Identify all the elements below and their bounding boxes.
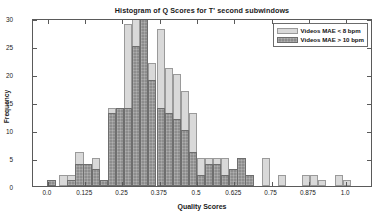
histogram-figure: Histogram of Q Scores for T' second subw… [0,0,387,224]
x-tick-mark [160,182,161,186]
x-tick-label: 0.0 [42,189,51,196]
histogram-bar [165,113,173,186]
histogram-bar [100,180,108,186]
x-tick-mark [122,182,123,186]
x-tick-mark [234,20,235,24]
x-tick-label: 1.0 [341,189,350,196]
y-tick-mark [367,48,371,49]
y-tick-mark [33,76,37,77]
histogram-bar [213,164,221,186]
x-tick-mark [272,182,273,186]
legend-swatch-icon-dark [277,37,298,43]
x-tick-mark [85,20,86,24]
histogram-bar [59,175,67,186]
legend-label-0: Videos MAE < 8 bpm [301,27,361,34]
histogram-bar [157,108,165,186]
histogram-bar [335,175,343,186]
plot-area: Videos MAE < 8 bpm Videos MAE > 10 bpm [32,19,372,187]
histogram-bar [262,158,270,186]
histogram-bar [221,175,229,186]
y-axis-title: Frequency [3,62,10,152]
x-tick-mark [85,182,86,186]
histogram-bar [318,180,326,186]
y-tick-mark [367,20,371,21]
x-tick-label: 0.5 [192,189,201,196]
x-axis-title: Quality Scores [32,203,372,210]
legend: Videos MAE < 8 bpm Videos MAE > 10 bpm [273,23,368,47]
x-tick-mark [197,182,198,186]
y-tick-mark [33,160,37,161]
legend-item-1[interactable]: Videos MAE > 10 bpm [277,35,364,44]
histogram-bar [140,19,148,186]
chart-title: Histogram of Q Scores for T' second subw… [32,6,372,15]
x-tick-mark [122,20,123,24]
x-tick-mark [160,20,161,24]
y-tick-mark [33,132,37,133]
x-tick-label: 0.875 [300,189,316,196]
x-tick-label: 0.625 [225,189,241,196]
y-tick-mark [33,20,37,21]
legend-swatch-icon-light [277,28,298,34]
x-tick-mark [234,182,235,186]
histogram-bar [173,119,181,186]
histogram-bar [278,175,286,186]
histogram-bar [75,164,83,186]
histogram-bar [205,164,213,186]
y-tick-label: 0 [9,184,13,191]
histogram-bar [116,108,124,186]
x-tick-mark [48,182,49,186]
x-tick-label: 0.75 [264,189,276,196]
histogram-bar [181,130,189,186]
histogram-bar [92,169,100,186]
y-tick-label: 5 [9,156,13,163]
histogram-bar [132,46,140,186]
x-tick-label: 0.375 [151,189,167,196]
histogram-bar [245,175,253,186]
histogram-bar [67,180,75,186]
y-tick-label: 30 [6,16,13,23]
y-tick-mark [367,76,371,77]
histogram-bar [237,158,245,186]
histogram-bar [124,108,132,186]
histogram-bar [310,175,318,186]
x-tick-label: 0.25 [115,189,127,196]
legend-item-0[interactable]: Videos MAE < 8 bpm [277,26,364,35]
x-tick-mark [346,182,347,186]
y-tick-mark [33,104,37,105]
y-tick-mark [367,104,371,105]
x-tick-mark [48,20,49,24]
histogram-bar [108,113,116,186]
x-tick-label: 0.125 [76,189,92,196]
y-tick-mark [367,132,371,133]
histogram-bar [148,80,156,186]
y-tick-mark [367,160,371,161]
y-tick-mark [33,48,37,49]
histogram-bar [189,152,197,186]
x-tick-mark [197,20,198,24]
x-tick-mark [309,182,310,186]
legend-label-1: Videos MAE > 10 bpm [301,36,364,43]
y-tick-label: 25 [6,44,13,51]
